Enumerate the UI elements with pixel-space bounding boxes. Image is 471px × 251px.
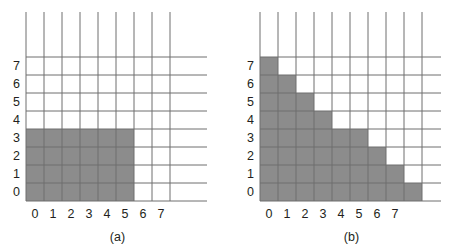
x-tick-label: 2: [298, 208, 312, 221]
y-tick-label: 7: [240, 60, 254, 73]
caption-a: (a): [0, 231, 235, 244]
x-tick-label: 1: [280, 208, 294, 221]
x-tick-label: 2: [64, 208, 78, 221]
figure-root: 01234567 01234567 (a) 01234567 01234567 …: [0, 0, 471, 251]
x-tick-label: 4: [334, 208, 348, 221]
x-tick-label: 6: [136, 208, 150, 221]
x-tick-label: 6: [370, 208, 384, 221]
grid-canvas-b: [234, 0, 469, 225]
x-tick-label: 5: [352, 208, 366, 221]
y-tick-label: 4: [240, 114, 254, 127]
x-tick-label: 0: [28, 208, 42, 221]
filled-row: [260, 147, 386, 165]
filled-row: [260, 57, 278, 75]
y-tick-label: 3: [240, 132, 254, 145]
y-tick-label: 0: [240, 186, 254, 199]
y-tick-label: 6: [6, 78, 20, 91]
y-tick-label: 2: [240, 150, 254, 163]
y-tick-label: 2: [6, 150, 20, 163]
x-tick-label: 7: [154, 208, 168, 221]
y-tick-label: 1: [6, 168, 20, 181]
y-tick-label: 0: [6, 186, 20, 199]
chart-panel-b: 01234567 01234567 (b): [234, 0, 469, 251]
y-tick-label: 5: [6, 96, 20, 109]
x-tick-label: 1: [46, 208, 60, 221]
filled-row: [260, 183, 422, 201]
grid-canvas-a: [0, 0, 235, 225]
x-tick-label: 3: [82, 208, 96, 221]
y-tick-label: 7: [6, 60, 20, 73]
y-tick-label: 3: [6, 132, 20, 145]
y-tick-label: 4: [6, 114, 20, 127]
chart-panel-a: 01234567 01234567 (a): [0, 0, 235, 251]
filled-row: [260, 93, 314, 111]
plot-area-a: 01234567 01234567: [0, 0, 235, 225]
y-tick-label: 5: [240, 96, 254, 109]
caption-b: (b): [234, 231, 469, 244]
x-tick-label: 7: [388, 208, 402, 221]
plot-area-b: 01234567 01234567: [234, 0, 469, 225]
x-tick-label: 0: [262, 208, 276, 221]
x-tick-label: 4: [100, 208, 114, 221]
x-tick-label: 3: [316, 208, 330, 221]
x-tick-label: 5: [118, 208, 132, 221]
y-tick-label: 6: [240, 78, 254, 91]
y-tick-label: 1: [240, 168, 254, 181]
